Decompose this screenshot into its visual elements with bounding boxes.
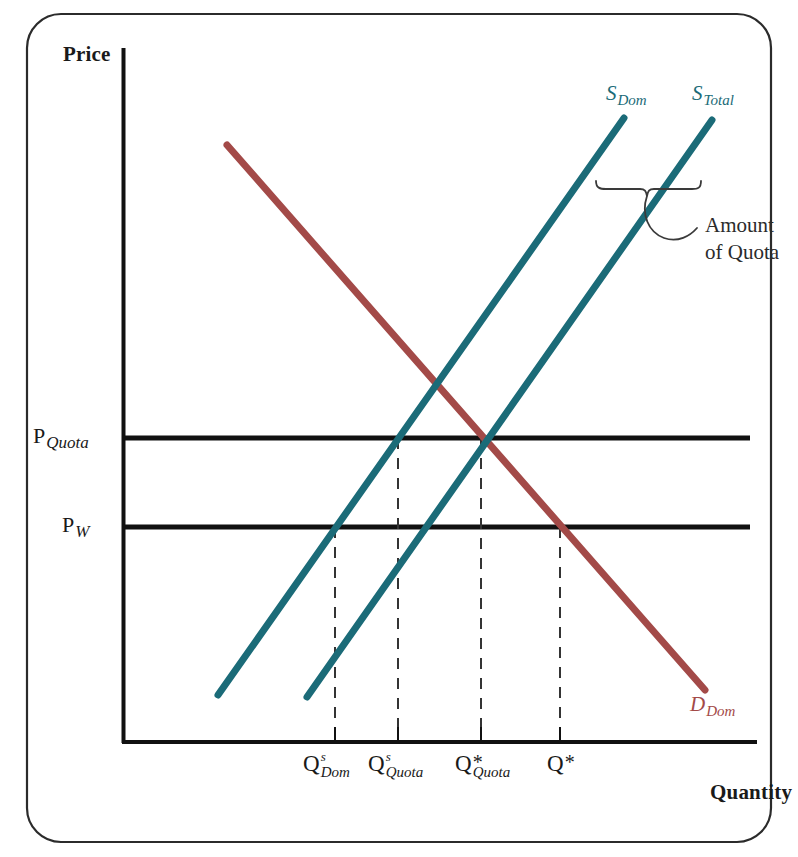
quantity-label-q-s-dom-sub: Dom: [321, 765, 350, 780]
quantity-label-q-star-base: Q: [547, 751, 564, 776]
quantity-label-q-star: Q *: [547, 752, 564, 775]
price-label-world-sub: W: [75, 522, 89, 541]
price-label-quota-base: P: [33, 423, 45, 448]
price-label-quota: PQuota: [33, 425, 88, 447]
quantity-label-q-s-dom: Q s Dom: [303, 752, 320, 775]
quantity-label-q-s-dom-base: Q: [303, 751, 320, 776]
curve-label-s-total: STotal: [692, 83, 733, 104]
curve-label-d-dom: DDom: [690, 694, 734, 715]
curve-label-s-total-sub: Total: [704, 92, 734, 108]
price-label-world-base: P: [62, 512, 74, 537]
curve-label-s-total-base: S: [692, 81, 703, 105]
curve-label-s-dom-sub: Dom: [618, 92, 647, 108]
curve-label-s-dom-base: S: [606, 81, 617, 105]
quantity-label-q-star-quota-base: Q: [455, 751, 472, 776]
quantity-label-q-star-sup: *: [565, 752, 575, 772]
quota-annotation-line-2: of Quota: [705, 239, 779, 266]
quantity-label-q-s-dom-sup: s: [321, 750, 326, 763]
curve-label-d-dom-sub: Dom: [706, 703, 735, 719]
curve-label-d-dom-base: D: [690, 692, 705, 716]
figure-border: [27, 14, 771, 842]
quantity-label-q-s-quota: Q s Quota: [368, 752, 385, 775]
quantity-label-q-star-quota: Q * Quota: [455, 752, 472, 775]
quota-annotation: Amount of Quota: [705, 212, 779, 266]
price-label-quota-sub: Quota: [46, 433, 89, 452]
quantity-label-q-star-quota-sub: Quota: [473, 765, 511, 780]
curve-label-s-dom: SDom: [606, 83, 646, 104]
y-axis-title: Price: [63, 44, 111, 65]
quota-diagram-figure: Price Quantity PQuota PW Q s Dom Q s Quo…: [0, 0, 798, 857]
quantity-label-q-s-quota-sup: s: [386, 750, 391, 763]
x-axis-title: Quantity: [710, 782, 792, 803]
quota-annotation-line-1: Amount: [705, 212, 779, 239]
quantity-label-q-s-quota-base: Q: [368, 751, 385, 776]
price-label-world: PW: [62, 514, 88, 536]
diagram-canvas: [0, 0, 798, 857]
quantity-label-q-s-quota-sub: Quota: [386, 765, 424, 780]
